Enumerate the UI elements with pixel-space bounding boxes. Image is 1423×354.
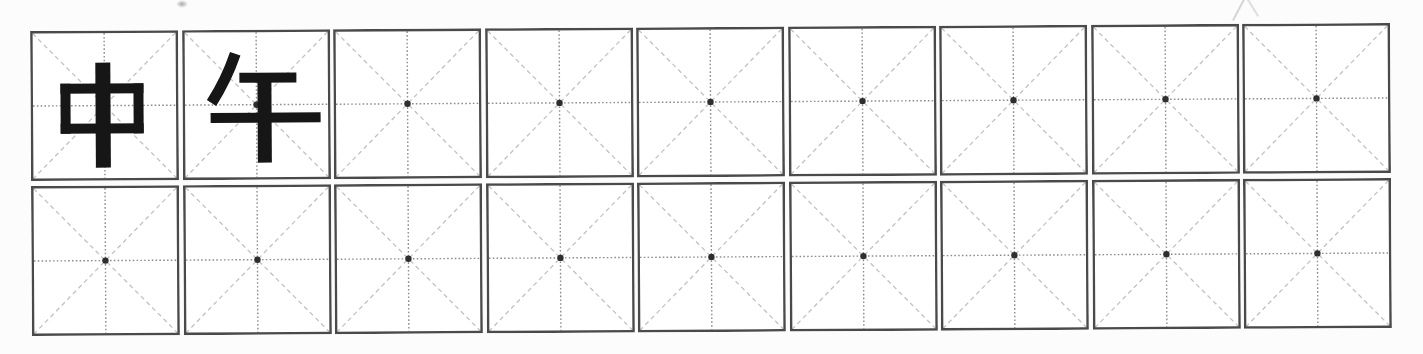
practice-character	[210, 53, 321, 163]
mizige-guides	[31, 185, 180, 336]
practice-cell	[636, 27, 785, 178]
mizige-guides	[486, 182, 635, 333]
practice-cell	[333, 28, 482, 179]
practice-character	[60, 62, 144, 167]
practice-cell	[31, 185, 180, 336]
mizige-guides	[1243, 178, 1392, 329]
center-dot	[1011, 252, 1017, 258]
practice-cell	[1243, 178, 1392, 329]
scan-artifact	[176, 0, 188, 8]
practice-cell	[486, 182, 635, 333]
practice-cell	[30, 30, 179, 181]
center-dot	[254, 256, 260, 262]
mizige-guides	[183, 184, 332, 335]
mizige-guides	[1242, 23, 1391, 174]
mizige-guides	[333, 28, 482, 179]
center-dot	[1162, 96, 1168, 102]
practice-cell	[182, 29, 331, 180]
center-dot	[557, 255, 563, 261]
center-dot	[860, 253, 866, 259]
center-dot	[1314, 250, 1320, 256]
practice-cell	[183, 184, 332, 335]
center-dot	[405, 256, 411, 262]
practice-cell	[939, 25, 1088, 176]
center-dot	[1010, 97, 1016, 103]
practice-cell	[485, 27, 634, 178]
practice-cell	[1091, 24, 1240, 175]
practice-cell	[940, 180, 1089, 331]
mizige-guides	[788, 181, 937, 332]
practice-cell	[788, 181, 937, 332]
mizige-guides	[637, 182, 786, 333]
mizige-guides	[334, 183, 483, 334]
practice-cell	[1242, 23, 1391, 174]
mizige-guides	[788, 26, 937, 177]
scan-artifact	[1232, 0, 1246, 21]
mizige-guides	[182, 29, 331, 180]
practice-cell	[334, 183, 483, 334]
mizige-guides	[940, 180, 1089, 331]
mizige-guides	[30, 30, 179, 181]
mizige-guides	[636, 27, 785, 178]
center-dot	[708, 254, 714, 260]
practice-cell	[637, 182, 786, 333]
center-dot	[556, 100, 562, 106]
practice-cell	[788, 26, 937, 177]
practice-sheet	[30, 23, 1392, 341]
practice-row-1	[30, 23, 1391, 181]
center-dot	[707, 99, 713, 105]
practice-cell	[1091, 179, 1240, 330]
mizige-guides	[939, 25, 1088, 176]
mizige-guides	[1091, 24, 1240, 175]
practice-row-2	[31, 178, 1392, 336]
scan-artifact	[1247, 0, 1259, 17]
center-dot	[859, 98, 865, 104]
center-dot	[102, 257, 108, 263]
mizige-guides	[485, 27, 634, 178]
center-dot	[1313, 95, 1319, 101]
center-dot	[1163, 251, 1169, 257]
mizige-guides	[1091, 179, 1240, 330]
center-dot	[404, 101, 410, 107]
